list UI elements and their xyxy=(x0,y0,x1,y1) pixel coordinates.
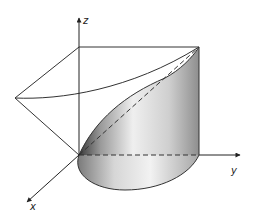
y-axis-label: y xyxy=(230,165,238,176)
3d-solid-diagram: z y x xyxy=(0,0,253,216)
top-left-edge xyxy=(15,47,79,98)
z-axis-label: z xyxy=(82,15,89,26)
x-axis-label: x xyxy=(29,201,36,212)
x-axis xyxy=(27,155,79,202)
left-to-origin-edge xyxy=(15,98,79,155)
